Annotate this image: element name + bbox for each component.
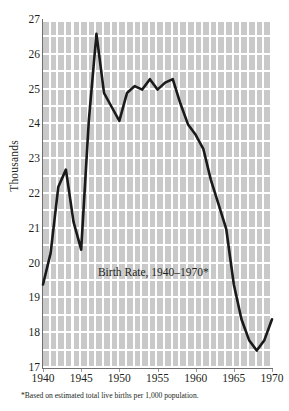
birth-rate-chart-figure: Thousands 1718192021222324252627 Birth R…: [0, 0, 289, 411]
x-tick-label: 1940: [23, 372, 63, 384]
x-axis-tick-labels: 1940194519501955196019651970: [0, 0, 289, 411]
x-tick-label: 1965: [214, 372, 254, 384]
x-tick-label: 1970: [252, 372, 289, 384]
x-tick-mark: [81, 369, 82, 372]
x-tick-label: 1950: [99, 372, 139, 384]
x-tick-mark: [158, 369, 159, 372]
x-tick-mark: [43, 369, 44, 372]
x-tick-label: 1955: [138, 372, 178, 384]
x-tick-mark: [196, 369, 197, 372]
x-tick-mark: [119, 369, 120, 372]
x-tick-mark: [234, 369, 235, 372]
x-tick-label: 1945: [61, 372, 101, 384]
x-tick-mark: [272, 369, 273, 372]
chart-footnote: *Based on estimated total live births pe…: [21, 391, 199, 400]
x-tick-label: 1960: [176, 372, 216, 384]
